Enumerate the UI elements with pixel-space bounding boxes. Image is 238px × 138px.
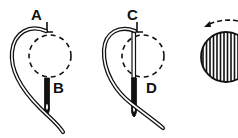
striped-disc-icon [200,30,238,86]
panel-2-needle-at-c: C D [104,6,164,128]
stitch-diagram: A B C D [0,0,238,138]
dashed-circle-outline [29,35,71,77]
direction-arrow-icon [207,20,238,25]
label-d: D [146,79,157,96]
label-a: A [31,6,42,23]
panel-3-finished-satin-disc [200,20,238,86]
dashed-circle-outline [122,35,164,77]
label-b: B [53,79,64,96]
panel-1-needle-at-a: A B [12,6,71,132]
label-c: C [127,6,138,23]
needle-entry-tick-icon [137,22,143,32]
needle-upper-shaft [132,32,136,78]
